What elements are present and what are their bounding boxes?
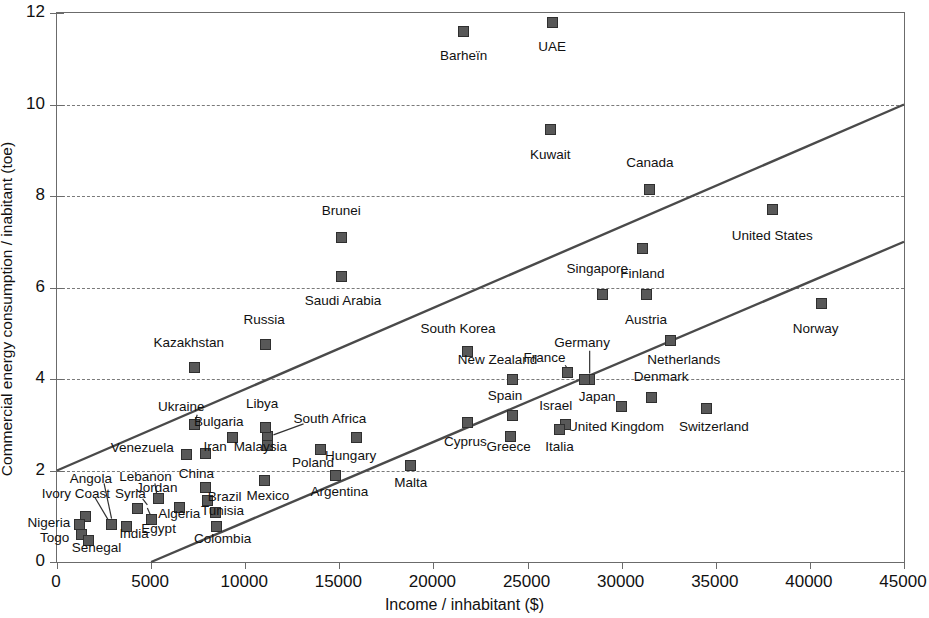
data-point-marker: [701, 403, 712, 414]
y-axis-title: Commercial energy consumption / inabitan…: [0, 142, 16, 476]
data-point-label: Netherlands: [647, 353, 720, 367]
data-point-label: Austria: [625, 313, 667, 327]
data-point-label: UAE: [538, 40, 566, 54]
data-point-label: United States: [732, 229, 813, 243]
x-tick-label-45000: 45000: [879, 572, 926, 592]
x-tick-label-15000: 15000: [315, 572, 362, 592]
data-point-label: Germany: [554, 336, 610, 350]
data-point-marker: [458, 26, 469, 37]
x-tick-30000: [622, 562, 623, 569]
y-tick-label-10: 10: [26, 94, 45, 114]
data-point-marker: [507, 410, 518, 421]
data-point-label: China: [179, 467, 214, 481]
x-tick-15000: [339, 562, 340, 569]
data-point-marker: [336, 271, 347, 282]
y-tick-label-2: 2: [36, 460, 45, 480]
y-tick-10: [50, 105, 57, 106]
data-point-marker: [132, 503, 143, 514]
data-point-label: Bulgaria: [194, 415, 244, 429]
data-point-marker: [330, 470, 341, 481]
data-point-marker: [597, 289, 608, 300]
data-point-marker: [637, 243, 648, 254]
data-point-marker: [547, 17, 558, 28]
y-tick-label-6: 6: [36, 277, 45, 297]
data-point-label: Canada: [626, 156, 673, 170]
gridline-y-8: [57, 196, 904, 197]
x-tick-0: [57, 562, 58, 569]
plot-inner: BarheïnUAEKuwaitCanadaUnited StatesBrune…: [57, 13, 904, 562]
data-point-marker: [405, 460, 416, 471]
data-point-label: Malta: [394, 476, 427, 490]
x-tick-45000: [904, 562, 905, 569]
data-point-label: United Kingdom: [568, 420, 664, 434]
data-point-label: Tunisia: [201, 504, 244, 518]
data-point-label: Angola: [70, 472, 112, 486]
data-point-marker: [767, 204, 778, 215]
data-point-label: Iran: [203, 440, 226, 454]
data-point-label: South Africa: [294, 412, 367, 426]
data-point-marker: [260, 422, 271, 433]
x-tick-10000: [245, 562, 246, 569]
data-point-marker: [259, 475, 270, 486]
data-point-marker: [351, 432, 362, 443]
x-tick-25000: [528, 562, 529, 569]
y-tick-6: [50, 288, 57, 289]
data-point-label: Brunei: [322, 204, 361, 218]
x-tick-5000: [151, 562, 152, 569]
x-tick-label-35000: 35000: [691, 572, 738, 592]
data-point-marker: [106, 519, 117, 530]
data-point-label: Singapore: [566, 262, 628, 276]
gridline-y-4: [57, 379, 904, 380]
data-point-marker: [816, 298, 827, 309]
data-point-marker: [336, 232, 347, 243]
data-point-label: Kazakhstan: [153, 336, 224, 350]
x-tick-label-5000: 5000: [131, 572, 169, 592]
y-tick-inner-8: [57, 196, 64, 197]
data-point-marker: [462, 417, 473, 428]
data-point-label: Barheïn: [440, 49, 487, 63]
data-point-label: Algeria: [158, 507, 200, 521]
data-point-label: Colombia: [194, 532, 251, 546]
data-point-marker: [644, 184, 655, 195]
data-point-label: New Zealand: [458, 353, 538, 367]
x-tick-35000: [716, 562, 717, 569]
data-point-label: Mexico: [246, 489, 289, 503]
data-point-label: Spain: [488, 389, 523, 403]
data-point-marker: [545, 124, 556, 135]
data-point-marker: [260, 339, 271, 350]
x-tick-label-25000: 25000: [503, 572, 550, 592]
scatter-chart: Commercial energy consumption / inabitan…: [0, 0, 929, 618]
data-point-marker: [562, 367, 573, 378]
data-point-marker: [579, 374, 590, 385]
data-point-label: Venezuela: [111, 441, 174, 455]
y-tick-inner-10: [57, 105, 64, 106]
data-point-marker: [616, 401, 627, 412]
data-point-label: Norway: [793, 322, 839, 336]
x-tick-label-30000: 30000: [597, 572, 644, 592]
data-point-marker: [641, 289, 652, 300]
data-point-label: Syria: [115, 487, 146, 501]
y-tick-12: [50, 13, 57, 14]
data-point-label: Israel: [539, 399, 572, 413]
y-tick-4: [50, 379, 57, 380]
data-point-label: Togo: [40, 531, 69, 545]
y-tick-inner-12: [57, 13, 64, 14]
data-point-label: Italia: [545, 440, 574, 454]
data-point-label: Japan: [579, 390, 616, 404]
data-point-marker: [665, 335, 676, 346]
x-tick-label-0: 0: [51, 572, 60, 592]
data-point-label: Ukraine: [158, 400, 205, 414]
data-point-marker: [189, 362, 200, 373]
y-tick-inner-6: [57, 288, 64, 289]
y-tick-label-4: 4: [36, 368, 45, 388]
data-point-marker: [554, 424, 565, 435]
y-tick-2: [50, 471, 57, 472]
y-tick-label-12: 12: [26, 2, 45, 22]
data-point-label: Nigeria: [27, 516, 70, 530]
y-tick-label-8: 8: [36, 185, 45, 205]
y-tick-0: [50, 562, 57, 563]
y-tick-8: [50, 196, 57, 197]
data-point-label: Cyprus: [444, 435, 487, 449]
data-point-label: Switzerland: [679, 420, 749, 434]
data-point-marker: [646, 392, 657, 403]
